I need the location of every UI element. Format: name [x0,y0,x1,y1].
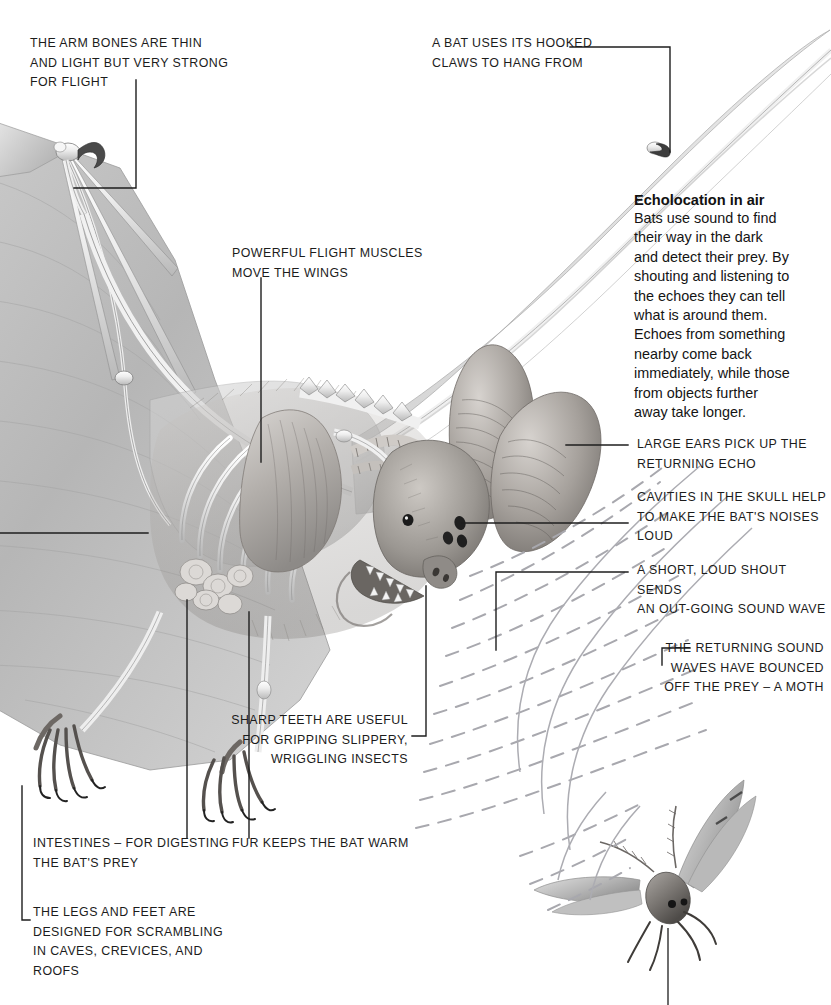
label-intestines: Intestines – for digesting the bat's pre… [33,834,248,873]
wing-claw-right [647,142,670,157]
label-returning-waves: The returning sound waves have bounced o… [629,639,824,698]
label-hooked-claws: A bat uses its hooked claws to hang from [432,34,647,73]
label-flight-muscles: Powerful flight muscles move the wings [232,244,462,283]
label-outgoing-wave: A short, loud shout sends an out-going s… [637,561,827,620]
moth-illustration [534,780,756,1005]
label-skull-cavities: Cavities in the skull help to make the b… [637,488,827,547]
diagram-canvas: The arm bones are thin and light but ver… [0,0,831,1005]
label-large-ears: Large ears pick up the returning echo [637,435,827,474]
bat-head [337,345,601,626]
bat-eye [403,514,414,526]
echolocation-heading: Echolocation in air [634,191,829,210]
label-fur: Fur keeps the bat warm [232,834,447,854]
label-sharp-teeth: Sharp teeth are useful for gripping slip… [200,711,408,770]
label-legs-feet: The legs and feet are designed for scram… [33,903,248,981]
label-arm-bones: The arm bones are thin and light but ver… [30,34,245,93]
echolocation-body: Bats use sound to find their way in the … [634,209,831,422]
